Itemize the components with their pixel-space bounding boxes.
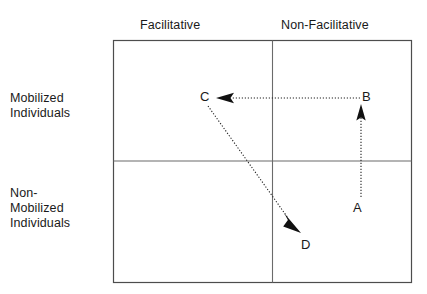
point-label-c: C xyxy=(200,90,209,103)
point-label-a: A xyxy=(353,201,362,214)
point-label-b: B xyxy=(362,90,371,103)
diagram-canvas: Facilitative Non-Facilitative Mobilized … xyxy=(0,0,427,294)
point-label-d: D xyxy=(301,238,310,251)
arrow-line-c-to-d xyxy=(208,106,288,218)
matrix-graphics xyxy=(0,0,427,294)
arrow-head-c-to-d xyxy=(283,213,301,233)
arrow-head-b-to-c xyxy=(216,93,234,103)
